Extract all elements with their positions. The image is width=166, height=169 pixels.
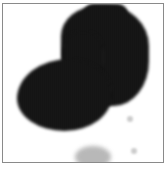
speck: [127, 116, 133, 122]
image-frame: [2, 3, 164, 163]
dark-blob-left: [17, 59, 112, 131]
gray-smudge-bottom: [75, 146, 111, 163]
speck: [131, 148, 137, 154]
